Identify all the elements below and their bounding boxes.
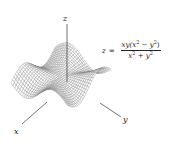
y-axis-line xyxy=(100,103,121,117)
surface-plot: z x y xyxy=(0,0,180,159)
y-axis-label: y xyxy=(122,115,128,124)
formula-lhs: z xyxy=(102,47,106,55)
formula-fraction: xy(x2 − y2) x2 + y2 xyxy=(121,41,161,60)
wireframe-surface xyxy=(11,43,111,107)
x-axis-line xyxy=(22,102,47,124)
z-axis-label: z xyxy=(62,14,68,23)
formula-equals: = xyxy=(109,47,115,55)
surface-formula: z = xy(x2 − y2) x2 + y2 xyxy=(102,41,161,60)
formula-denominator: x2 + y2 xyxy=(128,51,153,60)
x-axis-label: x xyxy=(14,127,19,136)
formula-numerator: xy(x2 − y2) xyxy=(121,41,161,51)
